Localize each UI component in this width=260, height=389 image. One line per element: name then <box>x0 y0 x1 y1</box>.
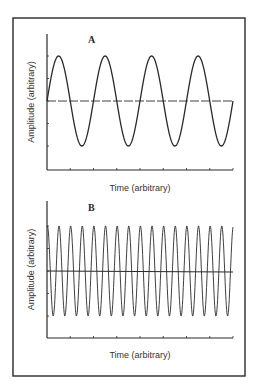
y-axis-label-b: Amplitude (arbitrary) <box>26 229 36 311</box>
axes-b <box>47 201 233 338</box>
zero-baseline-b <box>47 271 233 272</box>
panel-label-b: B <box>88 202 95 213</box>
panel-b-sine-wave-high-frequency: B Time (arbitrary) Amplitude (arbitrary) <box>26 201 233 360</box>
figure: A Time (arbitrary) Amplitude (arbitrary)… <box>0 0 260 389</box>
panel-a-sine-wave-low-frequency: A Time (arbitrary) Amplitude (arbitrary) <box>26 34 233 193</box>
figure-frame <box>13 18 245 376</box>
x-axis-label-b: Time (arbitrary) <box>109 350 170 360</box>
panel-label-a: A <box>88 34 96 45</box>
x-axis-label-a: Time (arbitrary) <box>109 183 170 193</box>
y-axis-label-a: Amplitude (arbitrary) <box>26 61 36 143</box>
